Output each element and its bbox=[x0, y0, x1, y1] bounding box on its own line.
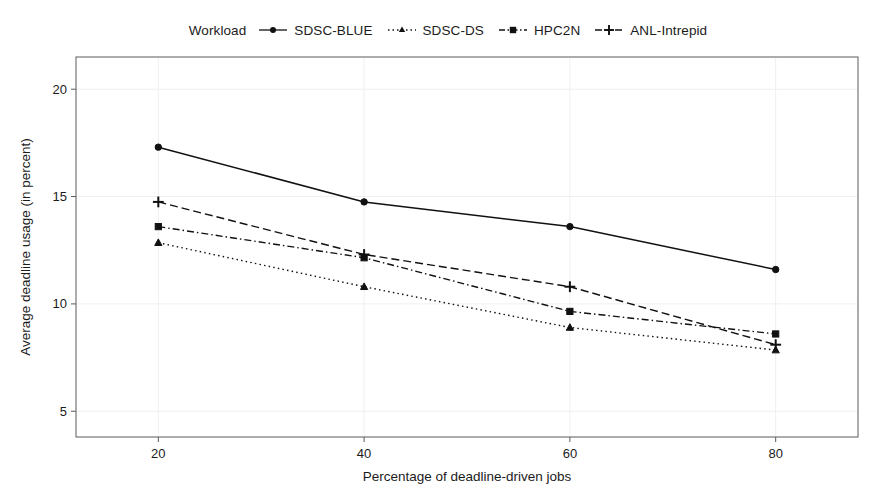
data-point-sdsc-blue bbox=[361, 199, 367, 205]
data-point-hpc2n bbox=[773, 331, 779, 337]
y-axis-title: Average deadline usage (in percent) bbox=[18, 138, 33, 355]
data-point-hpc2n bbox=[155, 224, 161, 230]
x-tick-label: 20 bbox=[151, 446, 165, 461]
legend-label-sdsc-ds: SDSC-DS bbox=[423, 23, 484, 38]
triangle-marker-icon bbox=[387, 23, 417, 37]
legend-entry-sdsc-ds: SDSC-DS bbox=[387, 23, 484, 38]
data-point-sdsc-ds bbox=[566, 324, 573, 331]
data-point-hpc2n bbox=[567, 308, 573, 314]
x-tick-label: 60 bbox=[563, 446, 577, 461]
y-tick-label: 20 bbox=[53, 82, 67, 97]
plus-marker-icon bbox=[594, 23, 624, 37]
y-tick-label: 10 bbox=[53, 296, 67, 311]
data-point-sdsc-ds bbox=[155, 239, 162, 246]
data-point-anl-intrepid bbox=[770, 339, 781, 350]
legend-label-anl-intrepid: ANL-Intrepid bbox=[630, 23, 707, 38]
series-line-sdsc-blue bbox=[158, 147, 775, 269]
x-tick-label: 40 bbox=[357, 446, 371, 461]
x-tick-label: 80 bbox=[768, 446, 782, 461]
data-point-anl-intrepid bbox=[153, 197, 164, 208]
x-axis-title: Percentage of deadline-driven jobs bbox=[363, 469, 572, 484]
data-point-sdsc-blue bbox=[567, 223, 573, 229]
chart-figure: Workload SDSC-BLUE SDSC-DS bbox=[0, 0, 896, 500]
legend-label-hpc2n: HPC2N bbox=[534, 23, 580, 38]
series-line-hpc2n bbox=[158, 227, 775, 334]
plot-area: 510152020406080Percentage of deadline-dr… bbox=[0, 0, 896, 500]
legend-entry-anl-intrepid: ANL-Intrepid bbox=[594, 23, 707, 38]
data-point-sdsc-blue bbox=[155, 144, 161, 150]
series-line-anl-intrepid bbox=[158, 202, 775, 345]
legend-entry-sdsc-blue: SDSC-BLUE bbox=[258, 23, 372, 38]
data-point-anl-intrepid bbox=[564, 281, 575, 292]
y-tick-label: 15 bbox=[53, 189, 67, 204]
square-marker-icon bbox=[498, 23, 528, 37]
legend-entry-hpc2n: HPC2N bbox=[498, 23, 580, 38]
legend-label-sdsc-blue: SDSC-BLUE bbox=[294, 23, 372, 38]
data-point-anl-intrepid bbox=[359, 249, 370, 260]
series-line-sdsc-ds bbox=[158, 243, 775, 350]
legend-title: Workload bbox=[189, 23, 247, 38]
plot-frame bbox=[76, 57, 858, 437]
y-tick-label: 5 bbox=[60, 404, 67, 419]
circle-marker-icon bbox=[258, 23, 288, 37]
chart-legend: Workload SDSC-BLUE SDSC-DS bbox=[0, 18, 896, 42]
data-point-sdsc-blue bbox=[772, 266, 778, 272]
